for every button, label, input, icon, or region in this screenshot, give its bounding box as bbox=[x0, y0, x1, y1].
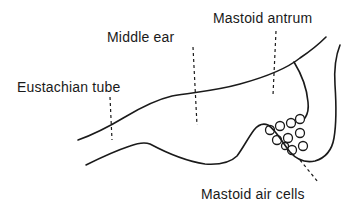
leader-mastoid-antrum bbox=[273, 31, 276, 95]
label-mastoid-antrum: Mastoid antrum bbox=[213, 11, 312, 25]
label-middle-ear: Middle ear bbox=[107, 30, 174, 44]
air-cells-cluster bbox=[266, 115, 308, 155]
leader-eustachian-tube bbox=[110, 97, 112, 140]
leader-middle-ear bbox=[193, 47, 197, 125]
ear-anatomy-diagram: Eustachian tube Middle ear Mastoid antru… bbox=[0, 0, 362, 215]
antrum-inner-wall bbox=[294, 62, 308, 118]
diagram-drawing bbox=[0, 0, 362, 215]
label-eustachian-tube: Eustachian tube bbox=[17, 80, 120, 94]
leader-mastoid-air-cells bbox=[300, 160, 318, 182]
label-mastoid-air-cells: Mastoid air cells bbox=[201, 187, 305, 201]
lower-canal-outline bbox=[86, 45, 340, 165]
